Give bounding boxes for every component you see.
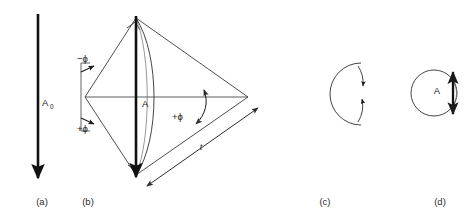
- angle-minus-phi-label: −ϕ: [77, 53, 88, 64]
- vector-a0-label: A: [42, 97, 49, 108]
- vector-a0-subscript: 0: [50, 103, 54, 110]
- panel-caption-d: (d): [434, 196, 446, 207]
- figure-background: [0, 0, 474, 220]
- angle-plus-phi-left-label: +ϕ: [77, 123, 88, 134]
- amplitude-label-d: A: [434, 85, 441, 96]
- panel-caption-c: (c): [319, 196, 330, 207]
- angle-plus-phi-right-label: +ϕ: [172, 111, 183, 122]
- amplitude-label-b: A: [142, 98, 149, 109]
- panel-caption-b: (b): [82, 196, 94, 207]
- panel-caption-a: (a): [36, 196, 48, 207]
- four-panel-vector-figure: A 0 (a) −ϕ +ϕ: [0, 0, 474, 220]
- length-t-label: t: [200, 142, 203, 152]
